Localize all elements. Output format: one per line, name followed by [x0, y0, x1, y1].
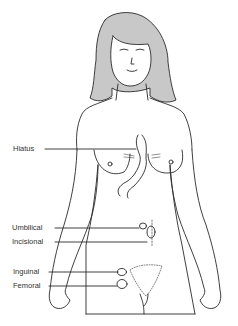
breast-right [148, 150, 183, 173]
umbilical-bulge [140, 223, 147, 229]
label-umbilical: Umbilical [12, 223, 42, 232]
shoulders [77, 98, 192, 150]
hiatus-marks [124, 154, 160, 158]
inguinal-bulge [118, 269, 127, 276]
label-inguinal: Inguinal [13, 267, 39, 276]
torso-right [170, 165, 195, 314]
incisional-bulge [147, 226, 155, 238]
label-hiatus: Hiatus [13, 144, 34, 153]
hernia-sites-figure [0, 0, 238, 326]
torso-left [86, 165, 98, 314]
groin-line [140, 294, 148, 314]
pubic-area [130, 265, 162, 296]
femoral-bulge [117, 280, 127, 289]
arm-right [170, 150, 221, 309]
label-incisional: Incisional [12, 237, 43, 246]
nipple-left [108, 162, 112, 166]
arm-left [49, 150, 98, 309]
breast-left [94, 150, 130, 174]
label-femoral: Femoral [13, 281, 41, 290]
hiatus-stomach [118, 135, 146, 198]
nipple-right [169, 160, 173, 164]
